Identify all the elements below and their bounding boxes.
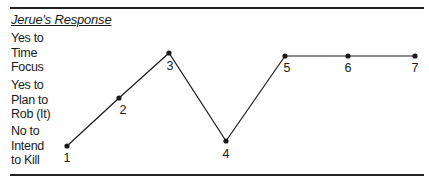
point-label-3: 3: [167, 59, 174, 73]
point-label-4: 4: [223, 147, 230, 161]
line-plot: 1234567: [0, 0, 429, 178]
data-point-3: [166, 50, 171, 55]
point-labels: 1234567: [64, 59, 419, 165]
data-point-6: [345, 53, 350, 58]
data-point-1: [64, 143, 69, 148]
data-point-7: [412, 53, 417, 58]
data-markers: [64, 50, 417, 148]
bottom-rule: [10, 174, 424, 176]
data-point-5: [282, 53, 287, 58]
point-label-5: 5: [284, 61, 291, 75]
point-label-6: 6: [345, 61, 352, 75]
point-label-2: 2: [120, 103, 127, 117]
data-point-2: [116, 95, 121, 100]
point-label-7: 7: [412, 61, 419, 75]
point-label-1: 1: [64, 151, 71, 165]
data-point-4: [223, 138, 228, 143]
